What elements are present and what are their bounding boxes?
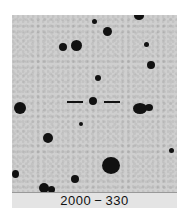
star xyxy=(43,133,53,143)
star xyxy=(12,170,19,178)
target-star xyxy=(89,97,97,105)
star xyxy=(134,15,144,20)
star xyxy=(102,157,120,174)
star xyxy=(92,19,97,24)
star xyxy=(71,40,82,51)
star xyxy=(103,27,112,36)
star xyxy=(79,122,83,126)
label-band: 2000 − 330 xyxy=(12,192,177,208)
star xyxy=(169,148,174,153)
target-marker-right xyxy=(104,101,120,103)
target-marker-left xyxy=(67,101,83,103)
star xyxy=(145,104,153,111)
star xyxy=(14,102,26,114)
star xyxy=(147,61,155,69)
star xyxy=(95,75,101,81)
star xyxy=(144,42,149,47)
finding-chart-image xyxy=(12,15,177,192)
star xyxy=(59,43,67,51)
star xyxy=(71,175,79,183)
object-designation: 2000 − 330 xyxy=(12,193,177,208)
